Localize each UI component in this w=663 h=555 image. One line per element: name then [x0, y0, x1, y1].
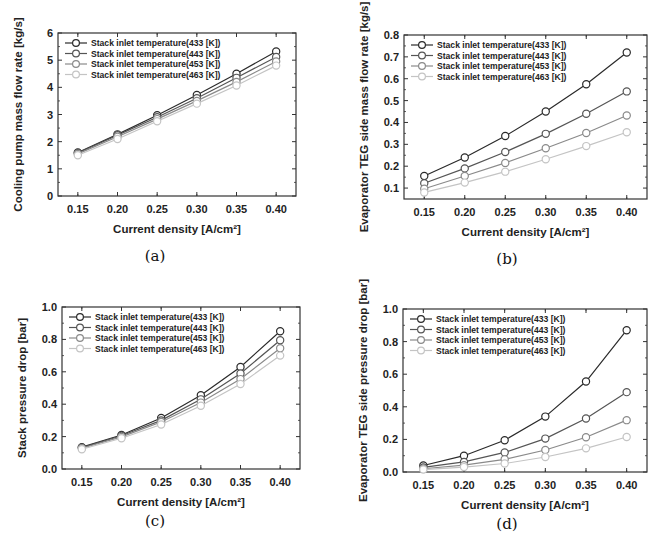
data-point-marker — [582, 378, 589, 385]
x-tick-label: 0.20 — [453, 479, 474, 491]
x-tick-label: 0.40 — [269, 476, 290, 488]
data-point-marker — [461, 179, 468, 186]
legend-marker-icon — [419, 52, 426, 59]
x-tick-label: 0.30 — [535, 206, 556, 218]
legend-marker-icon — [77, 324, 84, 331]
series-line — [424, 91, 627, 183]
y-tick-label: 0.4 — [384, 116, 400, 128]
x-tick-label: 0.15 — [71, 476, 92, 488]
y-tick-label: 0.8 — [383, 336, 398, 348]
data-point-marker — [233, 82, 240, 89]
y-tick-label: 0.6 — [42, 366, 57, 378]
x-tick-label: 0.40 — [616, 206, 637, 218]
data-point-marker — [421, 172, 428, 179]
y-tick-label: 0 — [47, 190, 53, 202]
series-line — [424, 115, 627, 188]
x-tick-label: 0.25 — [146, 203, 167, 215]
panel-caption: (c) — [145, 512, 165, 530]
legend-marker-icon — [73, 50, 80, 57]
y-tick-label: 0.7 — [384, 51, 399, 63]
legend-entry: Stack inlet temperature(433 [K]) — [436, 314, 566, 324]
data-point-marker — [623, 112, 630, 119]
legend-marker-icon — [77, 335, 84, 342]
data-point-marker — [583, 110, 590, 117]
legend-entry: Stack inlet temperature(453 [K]) — [91, 59, 221, 69]
y-tick-label: 0.0 — [383, 466, 398, 478]
data-point-marker — [582, 445, 589, 452]
y-tick-label: 3 — [47, 109, 53, 121]
legend-entry: Stack inlet temperature(463 [K]) — [437, 72, 567, 82]
panel-caption: (a) — [145, 247, 166, 265]
legend-entry: Stack inlet temperature(463 [K]) — [95, 344, 225, 354]
series-line — [423, 392, 626, 467]
series-line — [82, 340, 280, 447]
data-point-marker — [502, 168, 509, 175]
data-point-marker — [197, 402, 204, 409]
legend-marker-icon — [73, 40, 80, 47]
data-point-marker — [78, 446, 85, 453]
data-point-marker — [542, 130, 549, 137]
legend-entry: Stack inlet temperature(433 [K]) — [91, 38, 221, 48]
x-axis-label: Current density [A/cm²] — [113, 223, 241, 235]
chart-panel-d: 0.150.200.250.300.350.400.00.20.40.60.81… — [357, 279, 647, 533]
data-point-marker — [237, 380, 244, 387]
data-point-marker — [273, 62, 280, 69]
data-point-marker — [460, 464, 467, 471]
legend-marker-icon — [73, 61, 80, 68]
figure: 0.150.200.250.300.350.400123456Current d… — [0, 0, 663, 555]
data-point-marker — [501, 437, 508, 444]
legend-marker-icon — [77, 314, 84, 321]
data-point-marker — [501, 460, 508, 467]
data-point-marker — [582, 434, 589, 441]
x-axis-label: Current density [A/cm²] — [117, 496, 245, 508]
data-point-marker — [461, 154, 468, 161]
y-tick-label: 0.2 — [384, 160, 399, 172]
series-line — [82, 348, 280, 448]
data-point-marker — [501, 449, 508, 456]
x-tick-label: 0.25 — [494, 479, 515, 491]
legend-marker-icon — [418, 347, 425, 354]
chart-panel-a: 0.150.200.250.300.350.400123456Current d… — [12, 17, 296, 265]
series-line — [423, 437, 626, 470]
legend-marker-icon — [419, 63, 426, 70]
series-line — [82, 356, 280, 450]
data-point-marker — [420, 466, 427, 473]
data-point-marker — [623, 433, 630, 440]
data-point-marker — [583, 81, 590, 88]
y-tick-label: 0.4 — [42, 398, 58, 410]
legend-entry: Stack inlet temperature(433 [K]) — [437, 40, 567, 50]
data-point-marker — [502, 132, 509, 139]
data-point-marker — [623, 389, 630, 396]
y-tick-label: 6 — [47, 27, 53, 39]
legend-entry: Stack inlet temperature(443 [K]) — [437, 51, 567, 61]
data-point-marker — [277, 345, 284, 352]
data-point-marker — [277, 337, 284, 344]
y-tick-label: 0.6 — [383, 368, 398, 380]
y-tick-label: 0.4 — [383, 401, 399, 413]
data-point-marker — [461, 165, 468, 172]
data-point-marker — [583, 142, 590, 149]
legend-entry: Stack inlet temperature(453 [K]) — [436, 335, 566, 345]
y-axis-label: Cooling pump mass flow rate [kg/s] — [12, 17, 24, 211]
legend-marker-icon — [418, 337, 425, 344]
y-tick-label: 0.2 — [383, 433, 398, 445]
data-point-marker — [542, 145, 549, 152]
data-point-marker — [193, 100, 200, 107]
y-tick-label: 0.1 — [384, 182, 399, 194]
panel-caption: (b) — [496, 250, 517, 268]
legend-entry: Stack inlet temperature(443 [K]) — [91, 49, 221, 59]
y-tick-label: 1.0 — [42, 301, 57, 313]
y-tick-label: 0.8 — [384, 29, 399, 41]
data-point-marker — [623, 88, 630, 95]
x-tick-label: 0.15 — [414, 206, 435, 218]
data-point-marker — [542, 156, 549, 163]
data-point-marker — [118, 435, 125, 442]
legend-entry: Stack inlet temperature(463 [K]) — [91, 70, 221, 80]
legend-entry: Stack inlet temperature(463 [K]) — [436, 346, 566, 356]
x-tick-label: 0.20 — [107, 203, 128, 215]
x-tick-label: 0.20 — [454, 206, 475, 218]
data-point-marker — [542, 108, 549, 115]
data-point-marker — [623, 327, 630, 334]
y-axis-label: Stack pressure drop [bar] — [16, 318, 28, 458]
y-tick-label: 0.5 — [384, 95, 399, 107]
